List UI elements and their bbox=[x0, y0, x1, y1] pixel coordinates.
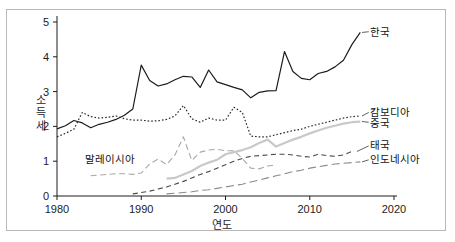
series-leader-lines bbox=[357, 32, 369, 162]
y-tick-label: 0 bbox=[43, 190, 49, 202]
y-tick-label: 1 bbox=[43, 155, 49, 167]
series-line-태국 bbox=[133, 151, 352, 193]
x-tick-label: 2020 bbox=[382, 203, 406, 215]
x-tick-label: 1980 bbox=[45, 203, 69, 215]
leader-line-캄보디아 bbox=[362, 112, 369, 115]
axes-group bbox=[53, 16, 397, 200]
x-tick-label: 2000 bbox=[213, 203, 237, 215]
y-axis-title-part-3: 세 bbox=[36, 120, 46, 132]
series-line-중국 bbox=[167, 122, 361, 179]
series-label-인도네시아: 인도네시아 bbox=[370, 153, 420, 165]
x-tick-labels: 19801990200020102020 bbox=[45, 203, 406, 215]
series-label-태국: 태국 bbox=[370, 139, 390, 151]
leader-line-한국 bbox=[362, 32, 369, 33]
series-label-한국: 한국 bbox=[370, 26, 390, 38]
chart-plot-area: 012345 19801990200020102020 한국캄보디아중국태국인도… bbox=[0, 0, 455, 242]
series-label-중국: 중국 bbox=[370, 117, 390, 129]
y-tick-label: 4 bbox=[43, 51, 49, 63]
leader-line-인도네시아 bbox=[362, 160, 369, 162]
x-tick-label: 1990 bbox=[129, 203, 153, 215]
leader-line-태국 bbox=[357, 146, 369, 152]
y-axis-title-part-2: 득 bbox=[36, 107, 46, 119]
series-label-말레이시아: 말레이시아 bbox=[85, 153, 135, 165]
series-lines bbox=[57, 32, 360, 193]
y-tick-label: 5 bbox=[43, 16, 49, 28]
income-tax-line-chart: 012345 19801990200020102020 한국캄보디아중국태국인도… bbox=[0, 0, 455, 242]
x-tick-label: 2010 bbox=[298, 203, 322, 215]
series-line-한국 bbox=[57, 32, 360, 128]
series-line-인도네시아 bbox=[167, 162, 361, 194]
y-axis-title-part-1: 소 bbox=[36, 94, 46, 106]
leader-line-중국 bbox=[362, 122, 369, 123]
x-axis-title: 연도 bbox=[212, 219, 232, 231]
